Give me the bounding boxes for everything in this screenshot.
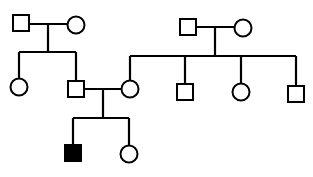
male-square-icon <box>180 19 196 35</box>
female-circle-icon <box>122 81 139 98</box>
individuals <box>11 15 305 163</box>
male-square-icon <box>68 81 84 97</box>
female-circle-icon <box>233 84 250 101</box>
affected-male-square-icon <box>65 145 81 161</box>
female-circle-icon <box>11 79 28 96</box>
female-circle-icon <box>68 17 85 34</box>
male-square-icon <box>177 84 193 100</box>
pedigree-diagram <box>0 0 313 177</box>
female-circle-icon <box>121 146 138 163</box>
male-square-icon <box>13 15 29 31</box>
male-square-icon <box>288 86 304 102</box>
relationship-lines <box>19 24 296 146</box>
female-circle-icon <box>235 20 252 37</box>
